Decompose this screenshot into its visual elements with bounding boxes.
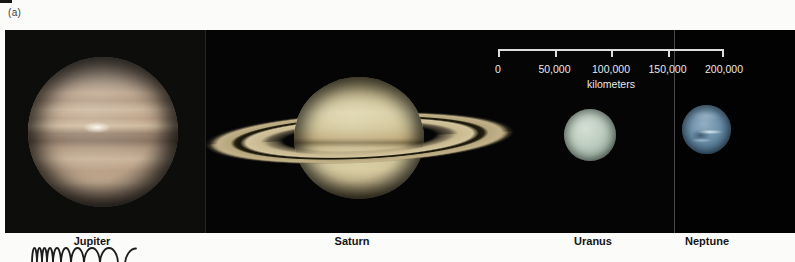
planet-photo-panel: 0 50,000 100,000 150,000 200,000 kilomet… (5, 30, 795, 233)
caption-saturn: Saturn (335, 235, 370, 247)
scale-tick-labels: 0 50,000 100,000 150,000 200,000 (498, 63, 724, 75)
scale-tick-0 (498, 51, 500, 57)
textbook-figure-page: (a) 0 50,000 100,000 150,000 20 (0, 0, 795, 262)
scale-bar-line (498, 49, 724, 58)
scale-label-200000: 200,000 (705, 63, 743, 75)
scale-unit-label: kilometers (498, 78, 724, 90)
scan-edge-artifact (0, 0, 12, 3)
scale-tick-50000 (555, 51, 557, 57)
scale-label-100000: 100,000 (592, 63, 630, 75)
wave-squiggle-graphic (30, 245, 154, 262)
figure-panel-label: (a) (8, 7, 21, 18)
scale-tick-200000 (722, 51, 724, 57)
neptune-planet-image (682, 105, 731, 154)
distance-scale-bar: 0 50,000 100,000 150,000 200,000 kilomet… (498, 49, 724, 90)
scale-label-150000: 150,000 (649, 63, 687, 75)
uranus-planet-image (564, 109, 616, 161)
photo-seam-jupiter-saturn (205, 30, 206, 233)
caption-neptune: Neptune (685, 235, 729, 247)
scale-label-50000: 50,000 (538, 63, 570, 75)
caption-uranus: Uranus (574, 235, 612, 247)
scale-tick-150000 (668, 51, 670, 57)
scale-tick-100000 (611, 51, 613, 57)
jupiter-planet-image (28, 57, 178, 207)
scale-label-0: 0 (495, 63, 501, 75)
